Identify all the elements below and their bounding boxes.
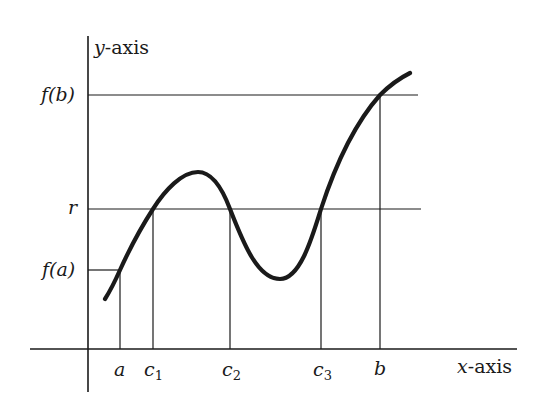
- label-a: a: [114, 360, 125, 379]
- x-axis-label-var: x: [457, 355, 468, 377]
- label-r: r: [68, 198, 77, 217]
- label-f-of-a: f(a): [42, 260, 75, 279]
- label-c3-base: c: [313, 358, 324, 380]
- diagram-canvas: [0, 0, 544, 403]
- label-c2-base: c: [222, 358, 233, 380]
- label-c1-sub: 1: [155, 368, 163, 383]
- label-c2: c2: [222, 360, 241, 382]
- ivt-diagram: y-axis x-axis f(b) r f(a) a c1 c2 c3 b: [0, 0, 544, 403]
- label-c3-sub: 3: [324, 368, 332, 383]
- function-curve: [105, 73, 410, 299]
- label-f-of-b: f(b): [41, 85, 75, 104]
- y-axis-label: y-axis: [94, 38, 149, 57]
- label-b: b: [374, 359, 386, 378]
- y-axis-label-var: y: [94, 36, 105, 58]
- label-c2-sub: 2: [233, 368, 241, 383]
- y-axis-label-rest: -axis: [105, 36, 149, 58]
- label-c1-base: c: [144, 358, 155, 380]
- x-axis-label-rest: -axis: [468, 355, 512, 377]
- label-c3: c3: [313, 360, 332, 382]
- label-c1: c1: [144, 360, 163, 382]
- x-axis-label: x-axis: [457, 357, 512, 376]
